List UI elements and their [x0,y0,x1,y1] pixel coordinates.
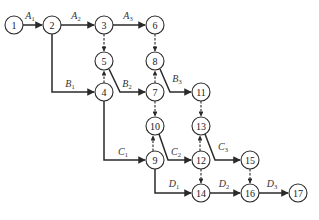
node-9: 9 [146,151,164,169]
svg-text:11: 11 [196,87,206,98]
svg-text:9: 9 [153,155,158,166]
node-10: 10 [146,117,164,135]
label-A2: A2 [70,10,80,22]
svg-text:16: 16 [245,188,255,199]
node-7: 7 [146,83,164,101]
node-13: 13 [192,117,210,135]
node-3: 3 [95,16,113,34]
svg-text:4: 4 [102,87,107,98]
label-A1: A1 [24,10,34,22]
svg-text:12: 12 [196,155,206,166]
node-15: 15 [241,151,259,169]
node-17: 17 [289,184,307,202]
label-C2: C2 [171,146,181,158]
svg-text:5: 5 [102,56,107,67]
node-11: 11 [192,83,210,101]
node-16: 16 [241,184,259,202]
svg-text:14: 14 [196,188,206,199]
svg-text:6: 6 [153,20,158,31]
label-A3: A3 [122,10,132,22]
node-2: 2 [43,16,61,34]
node-14: 14 [192,184,210,202]
label-D2: D2 [218,178,229,190]
svg-text:1: 1 [12,20,17,31]
svg-text:15: 15 [245,155,255,166]
node-8: 8 [146,52,164,70]
svg-text:13: 13 [196,121,206,132]
network-svg: A1 A2 A3 B1 B2 B3 C1 C2 C3 D1 D2 D3 1 2 … [0,0,319,220]
svg-text:2: 2 [50,20,55,31]
svg-text:10: 10 [150,121,160,132]
node-5: 5 [95,52,113,70]
svg-text:8: 8 [153,56,158,67]
label-C1: C1 [118,146,128,158]
nodes: 1 2 3 6 5 8 4 7 11 10 13 9 12 15 14 16 1… [5,16,307,202]
node-12: 12 [192,151,210,169]
label-D1: D1 [168,178,179,190]
network-diagram: A1 A2 A3 B1 B2 B3 C1 C2 C3 D1 D2 D3 1 2 … [0,0,319,220]
label-D3: D3 [266,178,277,190]
label-C3: C3 [218,141,228,153]
svg-text:3: 3 [102,20,107,31]
label-B3: B3 [172,73,181,85]
svg-text:7: 7 [153,87,158,98]
label-B1: B1 [65,78,74,90]
node-6: 6 [146,16,164,34]
node-1: 1 [5,16,23,34]
node-4: 4 [95,83,113,101]
svg-text:17: 17 [293,188,303,199]
label-B2: B2 [122,78,131,90]
